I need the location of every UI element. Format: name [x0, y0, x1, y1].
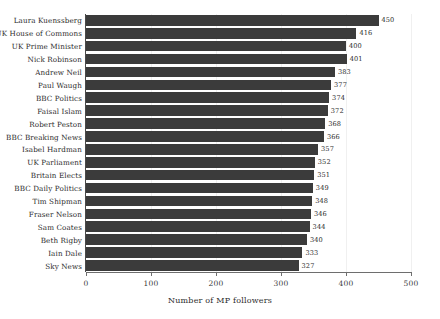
- bar: [86, 209, 311, 220]
- bar-value-label: 374: [332, 94, 345, 102]
- bar: [86, 170, 314, 181]
- bar-value-label: 377: [334, 81, 347, 89]
- bar: [86, 247, 302, 258]
- bar-value-label: 348: [315, 197, 328, 205]
- bar-category-label: Isabel Hardman: [22, 145, 82, 154]
- bar-value-label: 351: [317, 171, 330, 179]
- bar-value-label: 346: [314, 210, 327, 218]
- x-tick-mark: [216, 272, 217, 276]
- x-tick-label: 300: [274, 279, 289, 288]
- bar: [86, 28, 356, 39]
- bar: [86, 260, 299, 271]
- bar-row: Nick Robinson401: [86, 53, 411, 66]
- bar-chart: Laura Kuenssberg450UK House of Commons41…: [0, 0, 440, 319]
- bar-category-label: Sky News: [45, 261, 82, 270]
- bar-row: BBC Breaking News366: [86, 130, 411, 143]
- x-axis-line: [86, 272, 412, 273]
- bar-row: UK Prime Minister400: [86, 40, 411, 53]
- bar-category-label: Andrew Neil: [35, 68, 82, 77]
- x-tick-label: 0: [84, 279, 89, 288]
- bar: [86, 144, 318, 155]
- bar-value-label: 450: [382, 16, 395, 24]
- bar-category-label: Robert Peston: [29, 119, 82, 128]
- bar-row: UK Parliament352: [86, 156, 411, 169]
- bar-value-label: 333: [305, 249, 318, 257]
- bar-value-label: 340: [310, 236, 323, 244]
- bar-category-label: BBC Politics: [36, 93, 82, 102]
- bar-row: Tim Shipman348: [86, 195, 411, 208]
- x-tick-mark: [281, 272, 282, 276]
- x-tick-label: 100: [144, 279, 159, 288]
- x-axis-title: Number of MP followers: [0, 296, 440, 305]
- bar-category-label: Paul Waugh: [38, 80, 82, 89]
- bar-row: Andrew Neil383: [86, 66, 411, 79]
- bar-value-label: 366: [327, 133, 340, 141]
- x-tick-mark: [411, 272, 412, 276]
- bar-value-label: 327: [302, 262, 315, 270]
- bar-category-label: Beth Rigby: [41, 235, 82, 244]
- bar: [86, 54, 347, 65]
- bar-category-label: UK Prime Minister: [12, 42, 82, 51]
- x-tick-label: 500: [404, 279, 419, 288]
- bar: [86, 131, 324, 142]
- x-tick-mark: [151, 272, 152, 276]
- bar: [86, 67, 335, 78]
- bar-value-label: 401: [350, 55, 363, 63]
- bar: [86, 196, 312, 207]
- bar-value-label: 344: [313, 223, 326, 231]
- bar-value-label: 400: [349, 42, 362, 50]
- bar-category-label: Nick Robinson: [28, 55, 82, 64]
- x-tick-mark: [86, 272, 87, 276]
- bar-category-label: Laura Kuenssberg: [14, 16, 82, 25]
- bar-value-label: 372: [331, 107, 344, 115]
- bar-row: Isabel Hardman357: [86, 143, 411, 156]
- bar-category-label: Faisal Islam: [37, 106, 82, 115]
- bar-row: UK House of Commons416: [86, 27, 411, 40]
- bar: [86, 183, 313, 194]
- bar-value-label: 349: [316, 184, 329, 192]
- bar-value-label: 383: [338, 68, 351, 76]
- gridline: [411, 14, 412, 272]
- bar: [86, 15, 379, 26]
- bar-category-label: UK House of Commons: [0, 29, 82, 38]
- bar-row: Sam Coates344: [86, 220, 411, 233]
- bar-category-label: Britain Elects: [31, 171, 82, 180]
- bar-row: BBC Daily Politics349: [86, 182, 411, 195]
- bar-row: Iain Dale333: [86, 246, 411, 259]
- bar: [86, 234, 307, 245]
- bar-category-label: BBC Breaking News: [6, 132, 82, 141]
- bar-value-label: 368: [328, 120, 341, 128]
- bar: [86, 221, 310, 232]
- bar: [86, 157, 315, 168]
- bar-row: Faisal Islam372: [86, 104, 411, 117]
- x-tick-label: 200: [209, 279, 224, 288]
- bar: [86, 105, 328, 116]
- bar-row: Laura Kuenssberg450: [86, 14, 411, 27]
- bar-value-label: 416: [359, 29, 372, 37]
- bar-row: Robert Peston368: [86, 117, 411, 130]
- x-tick-label: 400: [339, 279, 354, 288]
- y-axis-line: [85, 14, 86, 272]
- bar-category-label: UK Parliament: [27, 158, 82, 167]
- bar-value-label: 352: [318, 158, 331, 166]
- plot-area: Laura Kuenssberg450UK House of Commons41…: [86, 14, 411, 272]
- bar: [86, 92, 329, 103]
- bar-category-label: Iain Dale: [48, 248, 82, 257]
- bar-row: Paul Waugh377: [86, 79, 411, 92]
- bar-row: Beth Rigby340: [86, 233, 411, 246]
- bar-value-label: 357: [321, 145, 334, 153]
- bar-category-label: Tim Shipman: [33, 197, 82, 206]
- bar-row: BBC Politics374: [86, 91, 411, 104]
- bar-category-label: Sam Coates: [38, 222, 82, 231]
- bar: [86, 80, 331, 91]
- bar-row: Fraser Nelson346: [86, 208, 411, 221]
- bar: [86, 118, 325, 129]
- bar-row: Sky News327: [86, 259, 411, 272]
- bar-category-label: BBC Daily Politics: [14, 184, 82, 193]
- bar-category-label: Fraser Nelson: [29, 209, 82, 218]
- x-tick-mark: [346, 272, 347, 276]
- bar-row: Britain Elects351: [86, 169, 411, 182]
- bar: [86, 41, 346, 52]
